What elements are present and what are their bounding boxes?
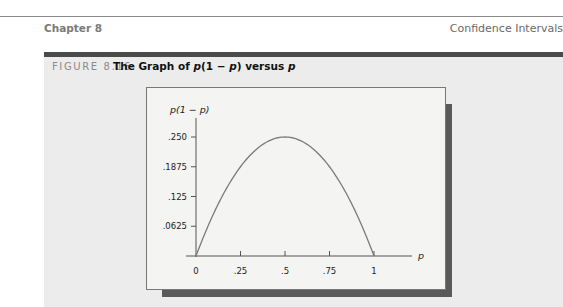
y-tick-label: .1875: [163, 162, 187, 172]
x-ticks: 0.25.5.751: [193, 251, 376, 276]
x-tick-label: .75: [323, 266, 337, 276]
curve-line: [196, 137, 374, 256]
x-tick-label: 0: [193, 266, 198, 276]
y-tick-label: .0625: [163, 221, 187, 231]
x-tick-label: .25: [234, 266, 248, 276]
x-tick-label: 1: [371, 266, 376, 276]
y-ticks: .0625.125.1875.250: [163, 132, 196, 231]
y-tick-label: .250: [168, 132, 187, 142]
y-tick-label: .125: [168, 192, 187, 202]
x-tick-label: .5: [281, 266, 289, 276]
y-axis-title: p(1 − p): [169, 104, 210, 115]
x-axis-title: p: [417, 250, 424, 261]
chart: .0625.125.1875.250 0.25.5.751 p(1 − p) p: [0, 0, 563, 307]
